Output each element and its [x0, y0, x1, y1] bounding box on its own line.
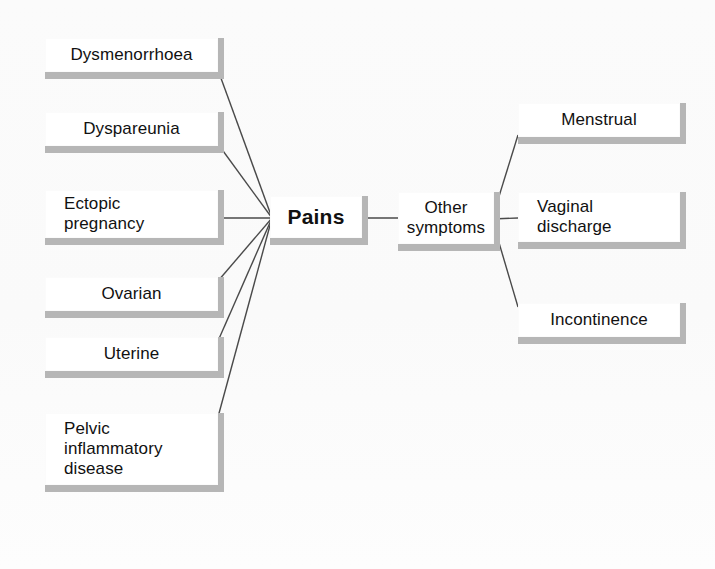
diagram-canvas: Pains Other symptoms DysmenorrhoeaDyspar…	[0, 0, 715, 569]
connector-pains-4	[218, 218, 272, 281]
hub-node-pains-label: Pains	[287, 205, 344, 230]
pain-node-1[interactable]: Dysmenorrhoea	[45, 38, 218, 72]
pain-node-3-label: Ectopic pregnancy	[64, 194, 144, 234]
connector-other-2	[492, 218, 518, 219]
connector-pains-6	[218, 218, 272, 417]
pains-connector-group	[218, 70, 272, 417]
pain-node-2-label: Dyspareunia	[83, 119, 180, 139]
connector-other-1	[492, 135, 518, 219]
other-symptom-node-1-label: Menstrual	[561, 110, 637, 130]
connector-pains-2	[218, 144, 272, 218]
other-symptom-node-2[interactable]: Vaginal discharge	[518, 192, 680, 242]
pain-node-4-label: Ovarian	[101, 284, 161, 304]
pain-node-6-label: Pelvic inflammatory disease	[64, 419, 163, 479]
hub-node-other-symptoms[interactable]: Other symptoms	[398, 192, 494, 244]
pain-node-5-label: Uterine	[104, 344, 160, 364]
pain-node-1-label: Dysmenorrhoea	[70, 45, 192, 65]
other-symptom-node-2-label: Vaginal discharge	[537, 197, 612, 237]
pain-node-4[interactable]: Ovarian	[45, 277, 218, 311]
connector-other-3	[492, 219, 518, 307]
other-symptom-node-3[interactable]: Incontinence	[518, 303, 680, 337]
pain-node-3[interactable]: Ectopic pregnancy	[45, 190, 218, 238]
connector-pains-5	[218, 218, 272, 341]
other-symptoms-connector-group	[492, 135, 518, 307]
pain-node-2[interactable]: Dyspareunia	[45, 112, 218, 146]
pain-node-5[interactable]: Uterine	[45, 337, 218, 371]
hub-node-pains[interactable]: Pains	[270, 196, 362, 238]
other-symptom-node-3-label: Incontinence	[550, 310, 648, 330]
hub-node-other-symptoms-label: Other symptoms	[407, 198, 485, 238]
other-symptom-node-1[interactable]: Menstrual	[518, 103, 680, 137]
pain-node-6[interactable]: Pelvic inflammatory disease	[45, 413, 218, 485]
connector-pains-1	[218, 70, 272, 218]
